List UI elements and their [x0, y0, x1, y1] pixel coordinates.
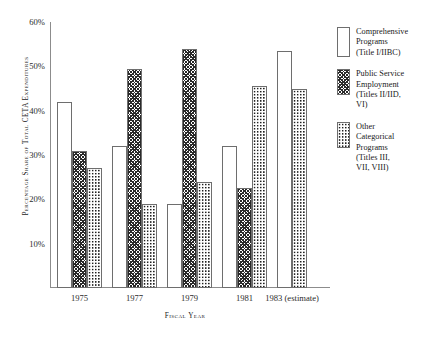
- x-tick-label: 1981: [236, 293, 253, 303]
- cross-hatch-swatch: [337, 69, 350, 95]
- bar: [142, 204, 157, 288]
- bar-group: [277, 22, 307, 288]
- legend-item: Public Service Employment (Titles II/IID…: [337, 69, 433, 111]
- legend-item: Comprehensive Programs (Title I/IIBC): [337, 27, 433, 58]
- legend-label: Public Service Employment (Titles II/IID…: [356, 69, 404, 111]
- legend-label: Other Categorical Programs (Titles III, …: [356, 122, 394, 174]
- x-tick-label: 1975: [71, 293, 88, 303]
- bar-group: [222, 22, 267, 288]
- x-axis-title: Fiscal Year: [165, 312, 206, 320]
- legend-label: Comprehensive Programs (Title I/IIBC): [356, 27, 408, 58]
- bar: [112, 146, 127, 288]
- y-tick-label: 30%: [29, 151, 45, 160]
- y-tick-label: 50%: [29, 62, 45, 71]
- bar: [127, 69, 142, 288]
- bar-groups: [51, 22, 330, 288]
- chart-legend: Comprehensive Programs (Title I/IIBC)Pub…: [337, 27, 433, 185]
- x-tick-label: 1977: [126, 293, 143, 303]
- bar: [197, 182, 212, 288]
- y-tick-label: 60%: [29, 18, 45, 27]
- bar: [72, 151, 87, 288]
- bar: [87, 168, 102, 288]
- dotted-swatch: [337, 122, 350, 148]
- ceta-expenditures-bar-chart: Percentage Share of Total CETA Expenditu…: [0, 0, 433, 338]
- bar-group: [57, 22, 102, 288]
- bar: [57, 102, 72, 288]
- bar: [167, 204, 182, 288]
- bar: [182, 49, 197, 288]
- open-white-swatch: [337, 27, 350, 57]
- bar-group: [167, 22, 212, 288]
- y-axis-tick-labels: 10%20%30%40%50%60%: [0, 0, 50, 290]
- y-tick-label: 10%: [29, 239, 45, 248]
- x-tick-label: 1983 (estimate): [265, 293, 319, 303]
- bar: [292, 89, 307, 289]
- legend-item: Other Categorical Programs (Titles III, …: [337, 122, 433, 174]
- y-tick-label: 20%: [29, 195, 45, 204]
- bar: [252, 86, 267, 288]
- y-tick-label: 40%: [29, 106, 45, 115]
- bar: [237, 188, 252, 288]
- bar: [277, 51, 292, 288]
- x-tick-label: 1979: [181, 293, 198, 303]
- bar: [222, 146, 237, 288]
- bar-group: [112, 22, 157, 288]
